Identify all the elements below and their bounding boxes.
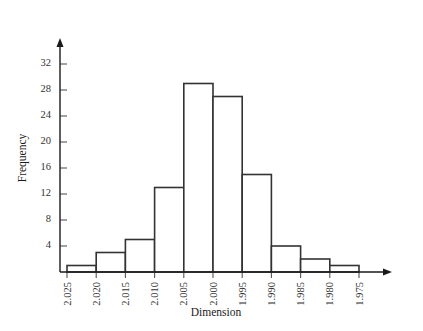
x-tick-label: 2.005 [178,282,189,306]
histogram-bar [301,259,330,272]
histogram-bar [125,240,154,273]
y-axis-title: Frequency [16,133,29,182]
y-axis-arrowhead [57,38,64,47]
y-axis-ticks: 48121620242832 [41,57,68,250]
x-tick-label: 1.985 [295,282,306,306]
x-tick-label: 2.010 [149,282,160,306]
histogram-bar [271,246,300,272]
x-axis-ticks: 2.0252.0202.0152.0102.0052.0001.9951.990… [62,272,365,306]
x-tick-label: 2.020 [91,282,102,306]
y-tick-label: 8 [46,213,51,224]
y-tick-label: 4 [46,239,52,250]
histogram-bar [96,253,125,273]
y-tick-label: 16 [41,161,52,172]
x-axis-arrowhead [383,269,392,276]
x-tick-label: 2.015 [120,282,131,306]
x-tick-label: 1.990 [266,282,277,306]
x-tick-label: 1.995 [237,282,248,306]
histogram-chart: 48121620242832 2.0252.0202.0152.0102.005… [0,0,423,331]
y-tick-label: 12 [41,187,52,198]
histogram-bar [67,266,96,273]
y-tick-label: 20 [41,135,52,146]
x-tick-label: 2.000 [208,282,219,306]
histogram-bar [155,188,184,273]
y-tick-label: 32 [41,57,52,68]
y-tick-label: 24 [41,109,52,120]
x-axis-title: Dimension [191,306,242,318]
histogram-bar [184,84,213,273]
y-tick-label: 28 [41,83,52,94]
x-tick-label: 1.975 [354,282,365,306]
x-tick-label: 1.980 [324,282,335,306]
chart-canvas: 48121620242832 2.0252.0202.0152.0102.005… [0,0,423,331]
x-tick-label: 2.025 [62,282,73,306]
bars-group [67,84,359,273]
histogram-bar [213,97,242,273]
histogram-bar [242,175,271,273]
histogram-bar [330,266,359,273]
